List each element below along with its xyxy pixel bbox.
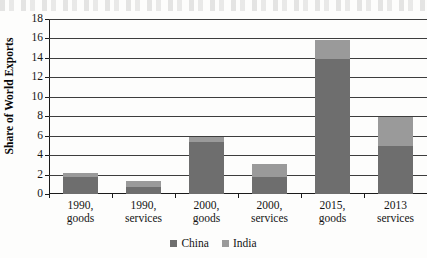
bar-column[interactable]	[252, 164, 287, 194]
x-axis-tick-mark	[238, 194, 239, 198]
gridline	[49, 58, 427, 59]
legend-item[interactable]: China	[170, 238, 208, 250]
gridline	[49, 77, 427, 78]
y-axis-tick-mark	[45, 58, 49, 59]
legend-label: India	[233, 238, 257, 250]
bar-segment-china[interactable]	[252, 177, 287, 195]
x-axis-label: 1990,goods	[49, 199, 112, 224]
x-axis-tick-mark	[112, 194, 113, 198]
bar-column[interactable]	[189, 137, 224, 194]
gridline	[49, 19, 427, 20]
x-axis-label-line2: services	[364, 212, 427, 225]
bar-segment-china[interactable]	[189, 142, 224, 194]
x-axis-label: 2013services	[364, 199, 427, 224]
x-axis-tick-mark	[364, 194, 365, 198]
y-axis-title-container: Share of World Exports	[11, 0, 13, 190]
legend-label: China	[181, 238, 208, 250]
y-axis-tick-label: 14	[32, 52, 44, 64]
gridline	[49, 38, 427, 39]
bar-segment-china[interactable]	[126, 187, 161, 194]
bar-segment-india[interactable]	[189, 137, 224, 143]
bar-segment-india[interactable]	[252, 164, 287, 177]
gridline	[49, 136, 427, 137]
y-axis-tick-label: 16	[32, 33, 44, 45]
legend-item[interactable]: India	[222, 238, 257, 250]
bar-segment-india[interactable]	[126, 181, 161, 187]
x-axis-label-line1: 2015,	[301, 199, 364, 212]
bar-column[interactable]	[63, 173, 98, 194]
bar-segment-india[interactable]	[315, 40, 350, 58]
x-axis-tick-mark	[301, 194, 302, 198]
y-axis-tick-label: 2	[37, 169, 43, 181]
y-axis-tick-label: 10	[32, 91, 44, 103]
y-axis-tick-label: 6	[37, 130, 43, 142]
bar-segment-india[interactable]	[378, 117, 413, 146]
gridline	[49, 175, 427, 176]
y-axis-tick-mark	[45, 136, 49, 137]
y-axis-line	[49, 19, 50, 194]
y-axis-tick-mark	[45, 38, 49, 39]
x-axis-label: 2000,services	[238, 199, 301, 224]
x-axis-tick-mark	[175, 194, 176, 198]
y-axis-tick-mark	[45, 175, 49, 176]
x-axis-label-line1: 2013	[364, 199, 427, 212]
x-axis-label: 1990,services	[112, 199, 175, 224]
stacked-bar-chart: Share of World Exports 181614121086420 1…	[0, 0, 427, 258]
x-axis-label-line1: 2000,	[238, 199, 301, 212]
x-axis-label-line2: services	[112, 212, 175, 225]
gridline	[49, 97, 427, 98]
y-axis-title: Share of World Exports	[3, 38, 15, 155]
x-axis-label: 2015,goods	[301, 199, 364, 224]
x-axis-label-line2: goods	[301, 212, 364, 225]
bar-segment-china[interactable]	[378, 146, 413, 194]
x-axis-label-line1: 2000,	[175, 199, 238, 212]
bar-column[interactable]	[378, 117, 413, 194]
y-axis-tick-label: 0	[37, 188, 43, 200]
bar-segment-china[interactable]	[63, 177, 98, 195]
chart-legend: ChinaIndia	[0, 238, 427, 250]
x-axis-label: 2000,goods	[175, 199, 238, 224]
x-axis-tick-mark	[49, 194, 50, 198]
bar-column[interactable]	[315, 40, 350, 194]
y-axis-tick-label: 8	[37, 110, 43, 122]
y-axis-tick-label: 12	[32, 72, 44, 84]
y-axis-tick-mark	[45, 97, 49, 98]
legend-swatch-icon	[222, 240, 229, 247]
x-axis-label-line1: 1990,	[49, 199, 112, 212]
y-axis-tick-mark	[45, 77, 49, 78]
y-axis-tick-mark	[45, 155, 49, 156]
plot-area: 181614121086420	[49, 19, 427, 194]
y-axis-tick-label: 18	[32, 13, 44, 25]
bar-segment-india[interactable]	[63, 173, 98, 177]
gridline	[49, 155, 427, 156]
y-axis-tick-mark	[45, 116, 49, 117]
legend-swatch-icon	[170, 240, 177, 247]
x-axis-label-line2: goods	[175, 212, 238, 225]
y-axis-tick-mark	[45, 19, 49, 20]
x-axis-label-line1: 1990,	[112, 199, 175, 212]
x-axis-label-line2: services	[238, 212, 301, 225]
bar-segment-china[interactable]	[315, 59, 350, 194]
bar-column[interactable]	[126, 181, 161, 194]
x-axis-label-line2: goods	[49, 212, 112, 225]
gridline	[49, 116, 427, 117]
y-axis-tick-label: 4	[37, 149, 43, 161]
